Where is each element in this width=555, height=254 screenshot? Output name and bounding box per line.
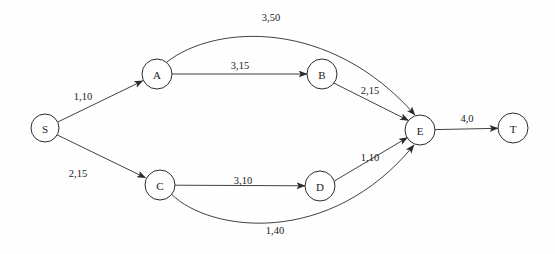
node-c-label: C — [156, 180, 163, 192]
edge-label-e-to-t: 4,0 — [460, 113, 473, 124]
network-diagram: S A B C D E T — [0, 0, 555, 254]
node-e-label: E — [417, 125, 424, 137]
node-e[interactable]: E — [405, 115, 435, 145]
node-b-label: B — [318, 69, 325, 81]
edge-label-d-to-e: 1,10 — [361, 152, 379, 163]
node-c[interactable]: C — [145, 170, 175, 200]
graph-canvas: S A B C D E T — [0, 0, 555, 254]
edge-e-to-t — [435, 128, 498, 129]
node-s-label: S — [42, 123, 48, 135]
edge-label-c-to-d: 3,10 — [234, 175, 252, 186]
node-b[interactable]: B — [307, 59, 337, 89]
node-t-label: T — [510, 123, 517, 135]
edge-s-to-a — [58, 81, 143, 122]
edge-label-c-to-e: 1,40 — [266, 225, 284, 236]
node-a[interactable]: A — [142, 59, 172, 89]
node-t[interactable]: T — [498, 113, 528, 143]
node-s[interactable]: S — [31, 114, 59, 142]
edge-label-a-to-e: 3,50 — [262, 12, 280, 23]
edge-label-a-to-b: 3,15 — [231, 60, 249, 71]
nodes-layer: S A B C D E T — [31, 59, 528, 201]
node-a-label: A — [153, 69, 161, 81]
edge-label-s-to-c: 2,15 — [69, 168, 87, 179]
edge-a-to-e — [167, 36, 416, 115]
edge-label-b-to-e: 2,15 — [361, 85, 379, 96]
node-d-label: D — [316, 181, 324, 193]
edge-label-s-to-a: 1,10 — [74, 91, 92, 102]
node-d[interactable]: D — [305, 171, 335, 201]
